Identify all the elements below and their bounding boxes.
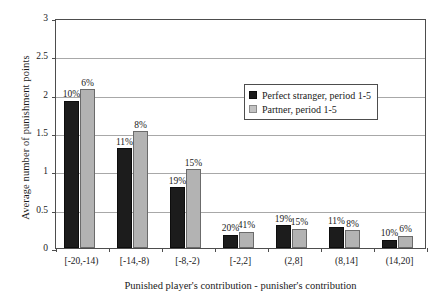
bar-group: 10%6% bbox=[374, 20, 427, 248]
bar bbox=[345, 230, 360, 248]
legend-item-label: Perfect stranger, period 1-5 bbox=[262, 90, 371, 101]
bar bbox=[170, 187, 185, 248]
x-axis-tick-mark bbox=[215, 248, 216, 252]
x-axis-tick-label: [-14,-8) bbox=[108, 257, 161, 267]
bar-value-label: 8% bbox=[125, 121, 156, 131]
bar bbox=[186, 169, 201, 248]
bar-group: 11%8% bbox=[109, 20, 162, 248]
bar-group: 19%15% bbox=[162, 20, 215, 248]
bar bbox=[117, 148, 132, 248]
x-axis-tick-mark bbox=[162, 248, 163, 252]
bar-group: 20%41% bbox=[215, 20, 268, 248]
y-axis-tick-label: 1 bbox=[22, 167, 48, 177]
bar-value-label: 15% bbox=[178, 159, 209, 169]
y-axis-tick-label: 0.5 bbox=[22, 206, 48, 216]
bar bbox=[292, 229, 307, 248]
x-axis-title: Punished player's contribution - punishe… bbox=[55, 280, 426, 291]
bar-group: 19%15% bbox=[268, 20, 321, 248]
x-axis-tick-label: [-2,2] bbox=[214, 257, 267, 267]
bar bbox=[80, 89, 95, 248]
bar bbox=[239, 232, 254, 248]
bar-group: 10%6% bbox=[56, 20, 109, 248]
bar bbox=[329, 227, 344, 248]
x-axis-tick-mark bbox=[56, 248, 57, 252]
y-axis-tick-label: 3 bbox=[22, 14, 48, 24]
bar-value-label: 6% bbox=[72, 79, 103, 89]
x-axis-tick-mark bbox=[321, 248, 322, 252]
x-axis-tick-label: [-8,-2) bbox=[161, 257, 214, 267]
y-axis-tick-label: 1.5 bbox=[22, 129, 48, 139]
bar-chart: Average number of punishment points 00.5… bbox=[0, 0, 433, 299]
x-axis-tick-mark bbox=[268, 248, 269, 252]
y-axis-tick-label: 2.5 bbox=[22, 52, 48, 62]
black-square-icon bbox=[249, 91, 257, 99]
bar-value-label: 41% bbox=[231, 221, 262, 231]
bar bbox=[382, 240, 397, 248]
bar-value-label: 8% bbox=[337, 220, 368, 230]
x-axis-tick-label: [-20,-14) bbox=[55, 257, 108, 267]
bar bbox=[276, 225, 291, 248]
bar-value-label: 15% bbox=[284, 218, 315, 228]
y-axis-tick-label: 2 bbox=[22, 91, 48, 101]
legend-item: Perfect stranger, period 1-5 bbox=[249, 88, 371, 102]
bar-group: 11%8% bbox=[321, 20, 374, 248]
x-axis-tick-mark bbox=[374, 248, 375, 252]
legend-item: Partner, period 1-5 bbox=[249, 102, 371, 116]
x-axis-tick-mark bbox=[427, 248, 428, 252]
chart-legend: Perfect stranger, period 1-5Partner, per… bbox=[244, 84, 378, 120]
x-axis-tick-label: (8,14] bbox=[320, 257, 373, 267]
bar bbox=[398, 236, 413, 248]
bar-value-label: 6% bbox=[390, 225, 421, 235]
plot-area: 10%6%11%8%19%15%20%41%19%15%11%8%10%6% bbox=[55, 19, 426, 249]
bar bbox=[133, 131, 148, 248]
x-axis-tick-label: (2,8] bbox=[267, 257, 320, 267]
bars-layer: 10%6%11%8%19%15%20%41%19%15%11%8%10%6% bbox=[56, 20, 425, 248]
legend-item-label: Partner, period 1-5 bbox=[262, 104, 337, 115]
y-axis-tick-label: 0 bbox=[22, 244, 48, 254]
x-axis-tick-mark bbox=[109, 248, 110, 252]
bar bbox=[64, 101, 79, 248]
gray-square-icon bbox=[249, 105, 257, 113]
bar bbox=[223, 235, 238, 248]
x-axis-tick-label: (14,20] bbox=[373, 257, 426, 267]
